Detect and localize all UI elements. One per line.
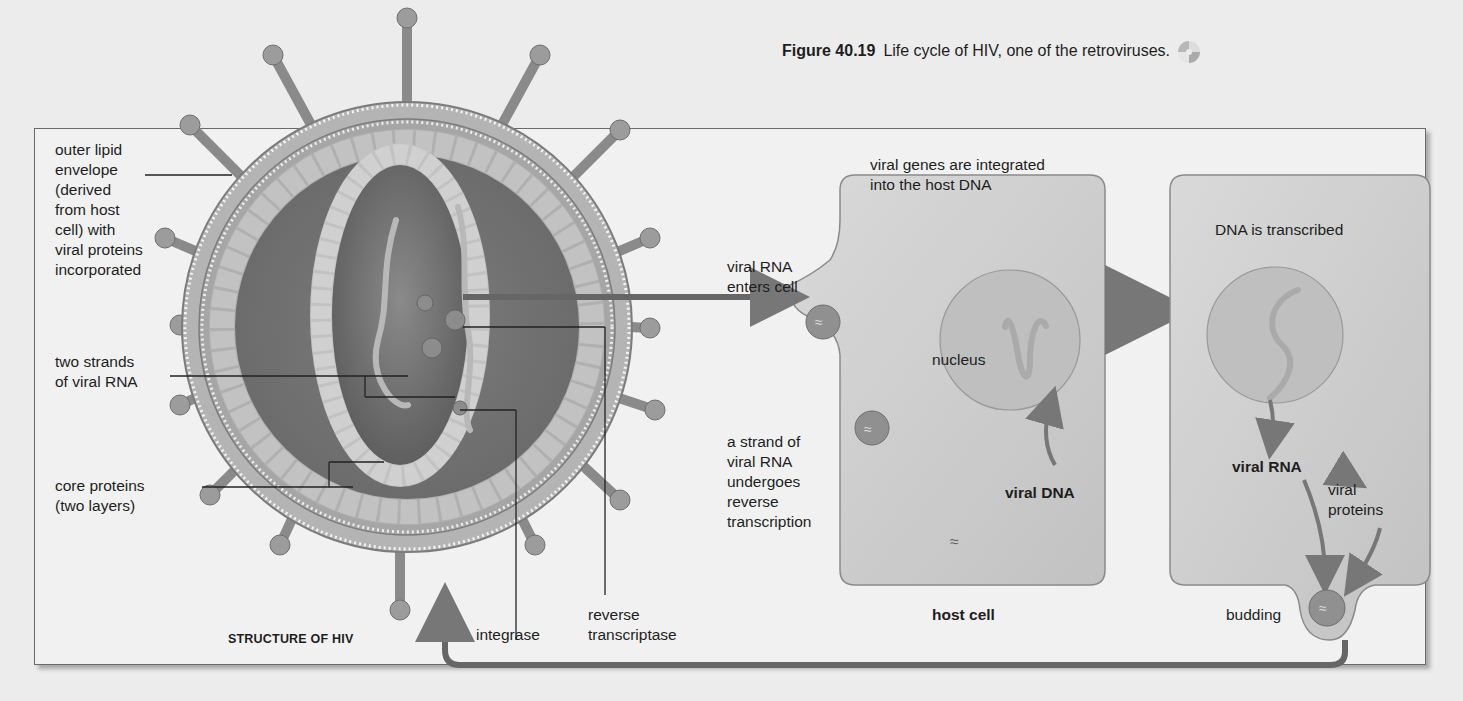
structure-title: STRUCTURE OF HIV bbox=[228, 632, 353, 646]
svg-text:≈: ≈ bbox=[815, 314, 823, 330]
label-viral-rna: viral RNA bbox=[1232, 457, 1302, 477]
label-envelope: outer lipid envelope (derived from host … bbox=[55, 140, 143, 280]
producing-cell: ≈ bbox=[1170, 175, 1430, 640]
label-reverse-transcriptase: reverse transcriptase bbox=[588, 605, 677, 645]
hiv-diagram-art: ≈ ≈ ≈ ≈ bbox=[0, 0, 1463, 701]
label-viral-rna-strands: two strands of viral RNA bbox=[55, 352, 138, 392]
label-integrase: integrase bbox=[476, 625, 540, 645]
label-rna-enters: viral RNA enters cell bbox=[727, 257, 798, 297]
label-budding: budding bbox=[1226, 605, 1281, 625]
label-dna-transcribed: DNA is transcribed bbox=[1215, 220, 1343, 240]
label-host-cell: host cell bbox=[932, 605, 995, 625]
label-nucleus: nucleus bbox=[932, 350, 985, 370]
svg-text:≈: ≈ bbox=[864, 421, 872, 437]
host-cell: ≈ ≈ ≈ bbox=[790, 175, 1105, 585]
label-viral-dna: viral DNA bbox=[1005, 483, 1075, 503]
label-genes-integrated: viral genes are integrated into the host… bbox=[870, 155, 1045, 195]
label-reverse-transcription: a strand of viral RNA undergoes reverse … bbox=[727, 432, 811, 532]
hiv-virion bbox=[155, 8, 665, 620]
label-viral-proteins: viral proteins bbox=[1328, 480, 1383, 520]
svg-text:≈: ≈ bbox=[950, 533, 959, 550]
svg-text:≈: ≈ bbox=[1319, 600, 1327, 616]
label-core-proteins: core proteins (two layers) bbox=[55, 476, 145, 516]
